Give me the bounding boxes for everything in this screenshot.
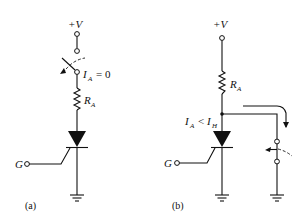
gate-terminal-a	[25, 162, 30, 167]
gate-wire-a	[29, 148, 70, 164]
scr-a	[68, 131, 86, 147]
shunt-wire-b	[222, 114, 277, 139]
scr-turnoff-diagram: +V I A = 0 R A G (a)	[0, 0, 305, 223]
shunt-switch-terminal-bottom-b	[275, 159, 280, 164]
current-label-a: I A = 0	[82, 68, 111, 83]
supply-label-b: +V	[213, 18, 228, 30]
resistor-label-b: R A	[229, 78, 242, 93]
gate-wire-b	[179, 148, 215, 163]
current-label-b: I A < I H	[184, 115, 218, 130]
gate-label-b: G	[164, 157, 172, 169]
svg-text:H: H	[211, 122, 218, 130]
gate-terminal-b	[175, 161, 180, 166]
resistor-a	[74, 88, 80, 110]
svg-text:A: A	[87, 75, 93, 83]
ground-icon-a	[70, 195, 84, 201]
current-arrow-b	[243, 106, 286, 127]
resistor-b	[219, 71, 225, 94]
svg-text:A: A	[189, 122, 195, 130]
switch-terminal-top-a	[75, 49, 80, 54]
supply-terminal-b	[220, 36, 225, 41]
caption-a: (a)	[25, 200, 36, 212]
svg-text:R: R	[229, 78, 237, 90]
panel-b: +V R A I A < I H G	[164, 18, 292, 212]
switch-motion-arc-b	[278, 149, 292, 156]
svg-text:A: A	[90, 101, 96, 109]
supply-label-a: +V	[68, 18, 83, 30]
resistor-label-a: R A	[83, 94, 96, 109]
gate-label-a: G	[15, 158, 23, 170]
scr-b	[213, 131, 231, 147]
caption-b: (b)	[172, 200, 184, 212]
switch-arrow-a	[60, 68, 66, 74]
svg-text:<: <	[198, 115, 204, 127]
supply-terminal-a	[75, 32, 80, 37]
ground-icon-b2	[270, 195, 284, 201]
switch-terminal-bottom-a	[75, 70, 80, 75]
panel-a: +V I A = 0 R A G (a)	[15, 18, 111, 212]
shunt-switch-terminal-top-b	[275, 139, 280, 144]
svg-text:R: R	[83, 94, 91, 106]
svg-text:A: A	[236, 85, 242, 93]
switch-motion-arc-a	[63, 58, 85, 73]
ground-icon-b1	[215, 195, 229, 201]
svg-text:= 0: = 0	[96, 68, 111, 80]
